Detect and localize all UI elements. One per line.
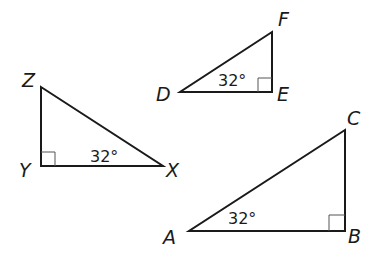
vertex-label-a: A — [161, 226, 176, 248]
triangles-figure: Z Y X 32° D E F 32° A B C 32° — [0, 0, 380, 260]
vertex-label-y: Y — [19, 159, 32, 181]
triangle-def: D E F 32° — [156, 8, 290, 105]
right-angle-mark-y — [41, 152, 55, 166]
vertex-label-z: Z — [21, 69, 36, 91]
vertex-label-b: B — [348, 225, 361, 247]
right-angle-mark-e — [258, 78, 272, 92]
vertex-label-d: D — [156, 83, 171, 105]
vertex-label-c: C — [347, 107, 361, 129]
vertex-label-f: F — [278, 8, 290, 30]
vertex-label-e: E — [277, 83, 289, 105]
angle-label-a: 32° — [228, 209, 256, 228]
vertex-label-x: X — [165, 159, 180, 181]
right-angle-mark-b — [329, 215, 345, 231]
angle-label-d: 32° — [218, 71, 246, 90]
triangle-abc: A B C 32° — [161, 107, 361, 248]
triangle-abc-outline — [189, 130, 345, 231]
angle-label-x: 32° — [90, 147, 118, 166]
